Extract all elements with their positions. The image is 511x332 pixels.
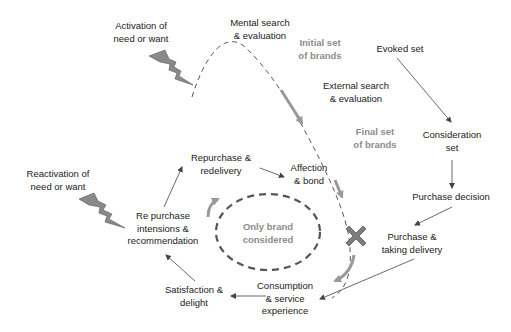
diagram-graphics [0, 0, 511, 332]
label-initial-set: Initial set of brands [298, 37, 341, 62]
label-repurchase-redelivery: Repurchase & redelivery [191, 152, 251, 177]
lightning-bolt-icon [149, 50, 193, 85]
label-reactivation: Reactivation of need or want [27, 168, 90, 193]
satisfaction-to-intentions-arrow [166, 255, 195, 281]
affection-down-arrow [335, 180, 342, 197]
narrowing-arrow [281, 90, 302, 123]
delivery-to-consumption-arrow [320, 259, 414, 299]
label-affection: Affection & bond [291, 162, 328, 187]
label-evoked-set: Evoked set [377, 43, 424, 56]
consumption-grey-arrow [335, 255, 354, 281]
repurchase-to-affection-arrow [260, 168, 284, 177]
lightning-bolt-icon [79, 193, 125, 228]
label-consideration-set: Consideration set [423, 129, 482, 154]
label-external-search: External search & evaluation [323, 80, 389, 105]
label-purchase-decision: Purchase decision [412, 191, 490, 204]
intentions-to-repurchase-arrow [164, 167, 182, 207]
diagram-canvas: Activation of need or want Mental search… [0, 0, 511, 332]
loyalty-loop-arrow [208, 199, 218, 217]
decision-to-delivery-arrow [415, 207, 452, 225]
label-purchase-delivery: Purchase & taking delivery [382, 231, 443, 256]
label-only-brand: Only brand considered [243, 221, 294, 246]
label-satisfaction: Satisfaction & delight [165, 284, 223, 309]
label-repurchase-intentions: Re purchase intensions & recommendation [128, 210, 199, 248]
evoked-to-consideration-arrow [397, 58, 451, 122]
label-final-set: Final set of brands [353, 126, 396, 151]
label-mental-search: Mental search & evaluation [230, 17, 290, 42]
x-mark-icon [346, 226, 366, 246]
label-consumption: Consumption & service experience [257, 280, 313, 318]
label-activation: Activation of need or want [114, 20, 169, 45]
